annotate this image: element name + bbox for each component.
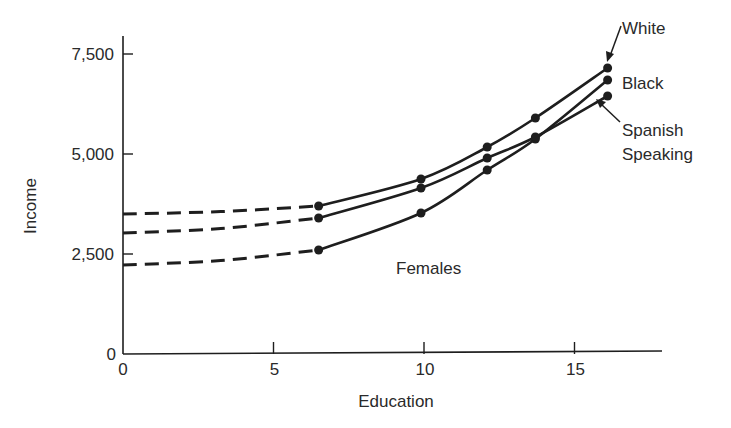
x-tick-label: 10 xyxy=(416,360,435,379)
annotation-females: Females xyxy=(396,259,461,278)
data-point xyxy=(314,202,323,211)
arrow-white-icon xyxy=(606,26,621,62)
y-tick-label: 7,500 xyxy=(71,45,114,64)
arrow-spanish-icon xyxy=(596,99,620,122)
dashed-extrapolation xyxy=(123,206,319,214)
x-axis-label: Education xyxy=(358,392,434,411)
data-point xyxy=(416,209,425,218)
y-tick-label: 5,000 xyxy=(71,145,114,164)
data-point xyxy=(314,214,323,223)
data-point xyxy=(314,246,323,255)
axes: 02,5005,0007,500051015 xyxy=(71,36,662,379)
data-point xyxy=(483,154,492,163)
label-black: Black xyxy=(622,74,664,93)
data-point xyxy=(531,133,540,142)
label-spanish-line2: Speaking xyxy=(622,145,693,164)
data-point xyxy=(416,184,425,193)
dashed-extrapolation xyxy=(123,218,319,233)
series-black xyxy=(123,76,612,266)
y-axis-label: Income xyxy=(21,178,40,234)
x-axis-line xyxy=(123,351,662,354)
label-white: White xyxy=(622,19,665,38)
data-point xyxy=(603,76,612,85)
data-point xyxy=(603,92,612,101)
data-point xyxy=(416,175,425,184)
series-line xyxy=(319,68,608,206)
series-group xyxy=(123,64,612,266)
series-line xyxy=(319,80,608,250)
data-point xyxy=(603,64,612,73)
dashed-extrapolation xyxy=(123,250,319,265)
data-point xyxy=(531,114,540,123)
y-tick-label: 0 xyxy=(107,345,116,364)
data-point xyxy=(483,143,492,152)
chart-canvas: 02,5005,0007,500051015 White Black Spani… xyxy=(0,0,731,428)
x-tick-label: 15 xyxy=(566,360,585,379)
x-tick-label: 0 xyxy=(118,360,127,379)
x-tick-label: 5 xyxy=(270,360,279,379)
data-point xyxy=(483,166,492,175)
y-tick-label: 2,500 xyxy=(71,245,114,264)
label-spanish-line1: Spanish xyxy=(622,121,683,140)
